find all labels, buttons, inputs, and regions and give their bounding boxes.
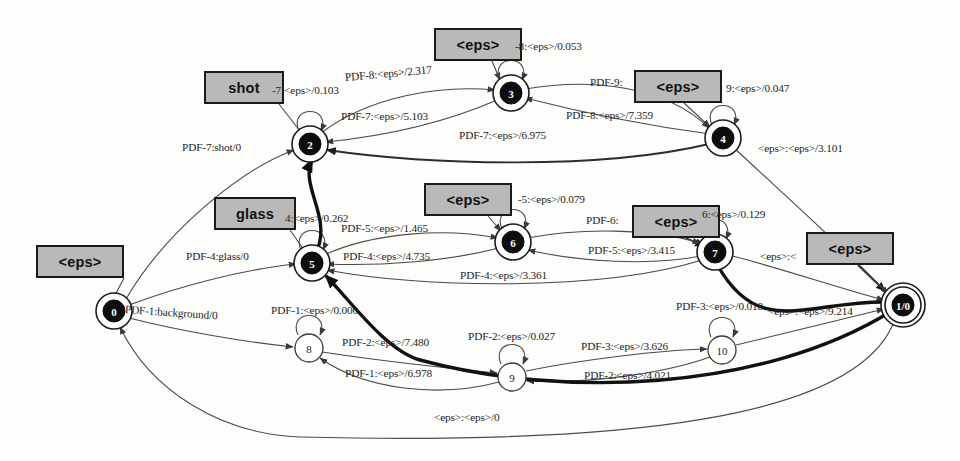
edge-label-4-to-2: PDF-7:<eps>/6.975	[459, 130, 546, 141]
self-loop-8	[296, 316, 322, 336]
edge-label-loop-4: 9:<eps>/0.047	[726, 83, 789, 94]
symbol-box-eps-state0: <eps>	[36, 245, 124, 278]
edge-label-loop-7: 6:<eps>/0.129	[702, 209, 765, 220]
self-loop-10	[709, 318, 735, 338]
state-label: 0	[111, 306, 117, 318]
edge-4-to-2	[327, 144, 709, 162]
state-label: 7	[712, 247, 718, 259]
edge-label-8-to-9: PDF-2:<eps>/7.480	[342, 337, 429, 348]
edge-label-4-to-3: PDF-8:<eps>/7.359	[566, 110, 653, 121]
edge-0-to-8	[129, 318, 293, 347]
edge-label-4-to-final: <eps>:<eps>/3.101	[758, 143, 843, 154]
edge-label-0-to-5: PDF-4:glass/0	[186, 251, 249, 262]
symbol-box-eps-state4: <eps>	[634, 70, 722, 103]
edge-label-9-to-10: PDF-3:<eps>/3.626	[581, 341, 668, 352]
edge-label-0-to-2: PDF-7:shot/0	[182, 142, 241, 153]
state-node-2[interactable]: 2	[292, 126, 328, 162]
fst-diagram-canvas: 023456789101/0 <eps>shot<eps><eps>glass<…	[0, 0, 960, 461]
edge-label-7-to-final: <eps>:<	[760, 251, 796, 262]
state-node-10[interactable]: 10	[708, 336, 736, 364]
edge-label-loop-8: PDF-1:<eps>/0.000	[271, 305, 358, 316]
symbol-box-eps-state6: <eps>	[424, 183, 512, 216]
edge-0-to-5	[129, 264, 296, 305]
edge-label-7-to-5: PDF-4:<eps>/3.361	[460, 270, 547, 281]
edge-label-loop-9: PDF-2:<eps>/0.027	[468, 331, 555, 342]
state-label: 8	[306, 343, 312, 355]
state-label: 3	[508, 88, 514, 100]
state-node-7[interactable]: 7	[697, 234, 733, 270]
edge-label-loop-6: -5:<eps>/0.079	[518, 194, 585, 205]
symbol-box-glass: glass	[214, 197, 296, 230]
edge-label-6-to-7: PDF-6:	[586, 215, 618, 226]
symbol-box-eps-final: <eps>	[806, 232, 894, 265]
state-node-9[interactable]: 9	[498, 363, 526, 391]
edge-label-10-to-9: PDF-2:<eps>/4.021	[584, 370, 671, 381]
edge-9-to-10	[526, 349, 707, 371]
edge-label-loop-10: PDF-3:<eps>/0.018	[676, 301, 763, 312]
edge-label-10-to-final: <eps>:<eps>/9.214	[768, 306, 853, 317]
state-node-8[interactable]: 8	[295, 334, 323, 362]
state-node-3[interactable]: 3	[493, 75, 529, 111]
edge-label-5-to-6: PDF-5:<eps>/1.465	[341, 223, 428, 234]
edge-label-3-to-4: PDF-9:	[590, 77, 622, 88]
state-label: 10	[717, 345, 729, 357]
state-node-1-0[interactable]: 1/0	[881, 283, 925, 327]
state-label: 1/0	[896, 300, 911, 312]
state-label: 4	[720, 133, 726, 145]
state-label: 6	[510, 237, 516, 249]
edge-label-loop-5: 4:<eps>/0.262	[285, 213, 348, 224]
edge-label-9-to-8: PDF-1:<eps>/6.978	[345, 368, 432, 379]
state-label: 9	[509, 372, 515, 384]
symbol-box-eps-state3: <eps>	[434, 28, 522, 61]
edge-label-7-to-6: PDF-5:<eps>/3.415	[588, 245, 675, 256]
state-nodes: 023456789101/0	[96, 75, 925, 391]
edge-label-loop-3: -8:<eps>/0.053	[515, 41, 582, 52]
state-node-5[interactable]: 5	[294, 245, 330, 281]
highlight-edge-5-to-2	[309, 160, 321, 248]
edge-label-6-to-5: PDF-4:<eps>/4.735	[343, 251, 430, 262]
edge-label-loop-2: -7:<eps>/0.103	[272, 85, 339, 96]
state-label: 5	[309, 258, 315, 270]
fst-graph-svg: 023456789101/0	[0, 0, 960, 461]
edge-label-3-to-2: PDF-7:<eps>/5.103	[341, 111, 428, 122]
edge-label-final-to-0: <eps>:<eps>/0	[434, 412, 500, 423]
state-node-6[interactable]: 6	[495, 224, 531, 260]
state-node-4[interactable]: 4	[705, 120, 741, 156]
state-label: 2	[307, 139, 313, 151]
self-loop-9	[499, 345, 525, 365]
